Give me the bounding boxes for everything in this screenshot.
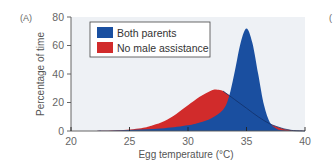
- x-tick-label: 35: [241, 135, 253, 147]
- legend-label: No male assistance: [117, 42, 209, 54]
- x-axis-title: Egg temperature (°C): [138, 149, 233, 160]
- x-tick-label: 20: [65, 135, 77, 147]
- y-tick-label: 0: [58, 125, 64, 137]
- legend-label: Both parents: [117, 27, 177, 39]
- x-tick-label: 25: [124, 135, 136, 147]
- y-axis-title: Percentage of time: [35, 32, 46, 116]
- legend: Both parentsNo male assistance: [90, 22, 210, 57]
- legend-swatch: [97, 42, 113, 53]
- chart: 0204060802025303540 Both parentsNo male …: [0, 0, 336, 161]
- y-tick-label: 80: [52, 11, 64, 23]
- legend-swatch: [97, 27, 113, 38]
- y-tick-label: 40: [52, 68, 64, 80]
- y-tick-label: 60: [52, 39, 64, 51]
- x-tick-label: 30: [182, 135, 194, 147]
- y-tick-label: 20: [52, 96, 64, 108]
- x-tick-label: 40: [299, 135, 311, 147]
